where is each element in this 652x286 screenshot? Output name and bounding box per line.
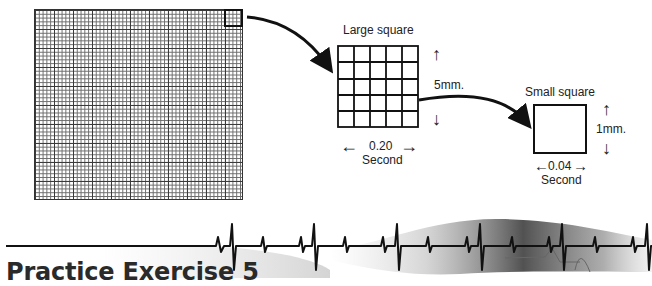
left-arrow-icon: ← — [340, 137, 358, 155]
large-square-width-unit: Second — [362, 153, 403, 167]
left-arrow-icon: ← — [534, 158, 549, 173]
large-square-width-value: 0.20 — [369, 139, 392, 153]
small-square-height-label: 1mm. — [596, 122, 626, 136]
page-title: Practice Exercise 5 — [6, 258, 259, 286]
large-square-height-label: 5mm. — [434, 78, 464, 92]
small-square — [533, 104, 587, 154]
small-square-width-value: 0.04 — [548, 159, 571, 173]
small-square-label: Small square — [525, 85, 595, 99]
right-arrow-icon: → — [573, 158, 588, 173]
down-arrow-icon: ↓ — [602, 139, 611, 157]
large-square-grid — [337, 45, 419, 128]
up-arrow-icon: ↑ — [602, 100, 611, 118]
large-square-label: Large square — [343, 23, 414, 37]
down-arrow-icon: ↓ — [432, 110, 441, 128]
up-arrow-icon: ↑ — [432, 45, 441, 63]
small-square-width-unit: Second — [541, 173, 582, 187]
